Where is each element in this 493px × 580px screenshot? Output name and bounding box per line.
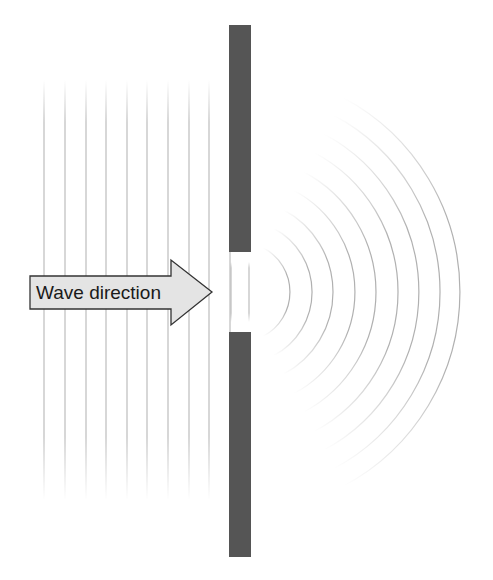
- diffraction-diagram: Wave direction: [0, 0, 493, 580]
- barrier-bottom-segment: [229, 332, 251, 557]
- arrow-label: Wave direction: [36, 282, 161, 303]
- diffracted-wavefront-arc: [334, 115, 440, 468]
- diffracted-wavefront-arc: [314, 153, 398, 432]
- diffracted-wavefront-arc: [343, 98, 460, 486]
- diffracted-wavefront-arc: [324, 134, 419, 450]
- diffracted-wavefront-arc: [294, 191, 355, 394]
- barrier-top-segment: [229, 25, 251, 252]
- slit-wavefront-line: [248, 262, 249, 322]
- diffracted-wavefronts: [264, 98, 460, 486]
- diffracted-wavefront-arc: [264, 248, 290, 336]
- slit-wavefronts: [230, 262, 249, 322]
- slit-wavefront-line: [230, 262, 231, 322]
- wave-direction-arrow: Wave direction: [30, 260, 212, 325]
- diffracted-wavefront-arc: [284, 210, 333, 374]
- diffracted-wavefront-arc: [274, 228, 312, 355]
- diffracted-wavefront-arc: [304, 172, 376, 412]
